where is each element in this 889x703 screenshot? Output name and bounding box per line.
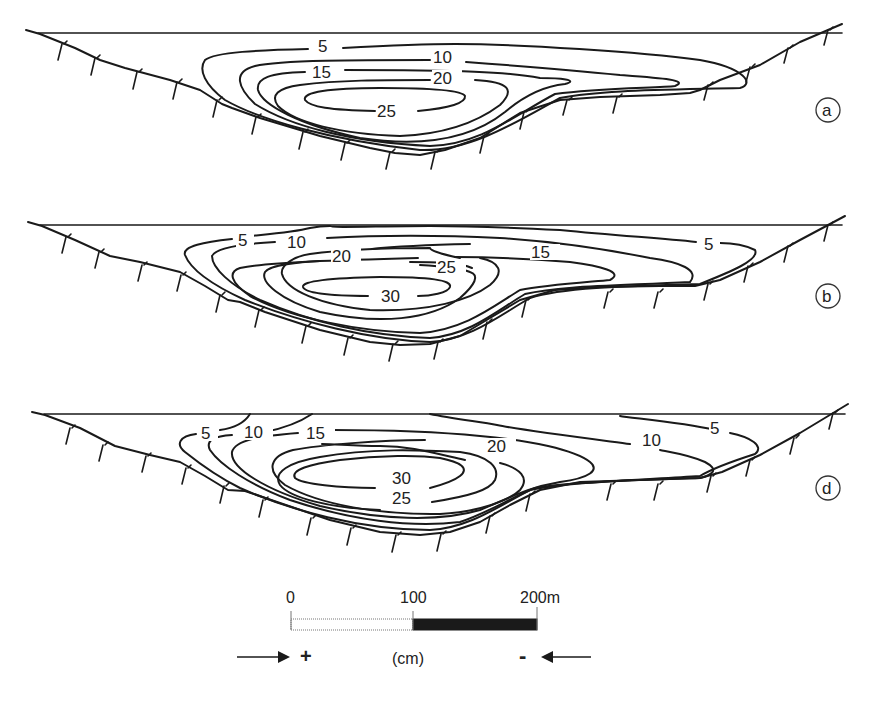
contour-labels: 5 10 15 20 25 30 5 (236, 231, 720, 306)
contour-label-5: 5 (318, 37, 327, 56)
legend-minus: - (519, 643, 526, 668)
contour-label-25: 25 (437, 258, 456, 277)
contour-label-5-right: 5 (704, 235, 713, 254)
contour-label-30: 30 (392, 469, 411, 488)
scale-tick-200: 200m (520, 589, 560, 606)
contour-label-20: 20 (487, 437, 506, 456)
scale-segment-dark (413, 619, 537, 630)
contour-label-15: 15 (531, 243, 550, 262)
panel-b: 5 10 15 20 25 30 5 b (28, 216, 845, 361)
scale-bar: 0 100 200m (286, 589, 560, 630)
contour-label-30: 30 (381, 287, 400, 306)
panel-label-d: d (822, 479, 831, 498)
scale-tick-100: 100 (400, 589, 427, 606)
legend-plus: + (300, 645, 312, 667)
contour-label-15: 15 (312, 63, 331, 82)
contour-label-25: 25 (377, 102, 396, 121)
contours (185, 226, 756, 342)
arrow-right-head-icon (278, 651, 290, 663)
contour-label-15: 15 (306, 424, 325, 443)
contour-label-10: 10 (287, 233, 306, 252)
contour-label-5: 5 (238, 231, 247, 250)
contour-label-5-right: 5 (710, 419, 719, 438)
panel-a: 5 10 15 20 25 a (26, 24, 842, 169)
contour-label-5: 5 (201, 424, 210, 443)
panel-label-a: a (822, 101, 832, 120)
legend-unit: (cm) (392, 650, 424, 667)
scale-tick-0: 0 (286, 589, 295, 606)
panel-label-b: b (822, 287, 831, 306)
contour-label-10-right: 10 (642, 431, 661, 450)
panel-d: 5 10 15 20 30 25 10 5 d (32, 404, 848, 552)
contour-label-20: 20 (433, 69, 452, 88)
contour-label-10: 10 (244, 423, 263, 442)
contour-label-25: 25 (392, 489, 411, 508)
contour-label-10: 10 (433, 48, 452, 67)
contours (202, 44, 746, 150)
scale-segment-light (291, 619, 413, 630)
contour-label-20: 20 (332, 247, 351, 266)
cross-section-figure: 5 10 15 20 25 a (0, 0, 889, 703)
legend: + (cm) - (237, 643, 591, 668)
